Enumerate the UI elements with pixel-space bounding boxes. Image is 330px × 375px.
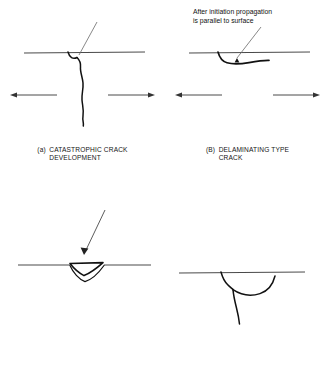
catastrophic-branch-path [233,290,240,324]
tension-arrow-left [175,92,222,97]
surface-line [189,52,310,53]
panel-b-annotation: After initiation propagation is parallel… [193,7,325,25]
panel-a-caption-text: CATASTROPHIC CRACK DEVELOPMENT [49,146,127,163]
tension-arrow-right [273,92,320,97]
panel-d-artwork [165,188,330,375]
panel-branching-crack: (D) BOTH DELAMINATING AND CATASTROPHIC C… [165,188,330,375]
panel-b-caption-text: DELAMINATING TYPE CRACK [219,146,289,163]
panel-a-tag: (a) [37,146,49,163]
panel-catastrophic-crack: (a) CATASTROPHIC CRACK DEVELOPMENT [0,0,165,187]
panel-b-caption: (B) DELAMINATING TYPE CRACK [165,146,330,163]
wear-particle-leader [81,210,105,255]
tension-arrow-right [108,92,155,97]
surface-line [24,52,145,53]
leader-line-icon [237,27,261,58]
panel-c-artwork [0,188,165,375]
leader-arrowhead-icon [235,58,240,63]
panel-a-caption: (a) CATASTROPHIC CRACK DEVELOPMENT [0,146,165,163]
catastrophic-crack-path [77,58,83,127]
crack-initiation-path [221,272,233,290]
delamination-crack-path [218,52,269,64]
leader-arrowhead-icon [81,248,89,255]
surface-line [179,272,305,273]
panel-wear-particle: Wear particle (C) WEAR PARTICLE PRODUCED… [0,188,165,375]
wear-mechanism-figure: (a) CATASTROPHIC CRACK DEVELOPMENT [0,0,330,375]
panel-b-tag: (B) [206,146,219,163]
delaminating-branch-path [233,276,275,295]
leader-line-icon [79,22,97,55]
panel-delaminating-crack: After initiation propagation is parallel… [165,0,330,187]
tension-arrow-left [10,92,57,97]
